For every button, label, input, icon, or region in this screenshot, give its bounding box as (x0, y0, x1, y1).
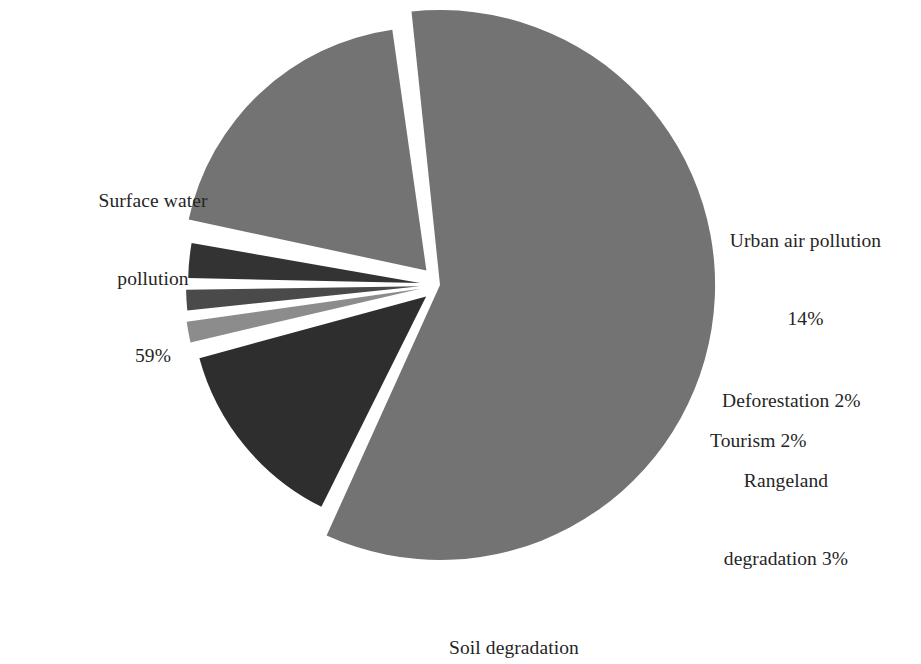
pie-label-value: 59% (58, 343, 248, 369)
pie-label-rangeland-degradation: Rangeland degradation 3% (686, 417, 886, 623)
pie-label-surface-water-pollution: Surface water pollution 59% (58, 137, 248, 420)
pie-slices (186, 10, 715, 560)
pie-label-line: degradation 3% (686, 546, 886, 572)
pie-label-soil-degradation: Soil degradation 20% (404, 584, 624, 664)
pie-label-line: pollution (58, 266, 248, 292)
pie-label-line: Rangeland (686, 468, 886, 494)
pie-chart-figure: Surface water pollution 59% Urban air po… (0, 0, 921, 664)
pie-label-line: Urban air pollution (703, 228, 908, 254)
pie-label-value: 14% (703, 306, 908, 332)
pie-label-line: Soil degradation (404, 635, 624, 661)
pie-label-line: Surface water (58, 188, 248, 214)
